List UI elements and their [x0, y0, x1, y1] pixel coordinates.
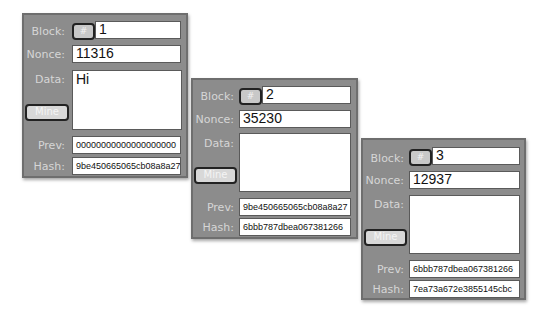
mine-button[interactable]: Mine [25, 104, 69, 121]
block-number-input[interactable]: 2 [262, 86, 351, 104]
block-card-1: Block: # 1 Nonce: 11316 Data: Hi Mine Pr… [22, 13, 188, 178]
data-label: Data: [189, 137, 234, 150]
prev-label: Prev: [189, 201, 234, 214]
hash-label: Hash: [359, 283, 404, 296]
block-label: Block: [359, 152, 404, 165]
block-label: Block: [20, 25, 65, 38]
prev-label: Prev: [359, 263, 404, 276]
block-label: Block: [189, 90, 234, 103]
prev-hash-field[interactable]: 00000000000000000000 [72, 136, 181, 154]
nonce-label: Nonce: [20, 48, 65, 61]
data-textarea[interactable] [239, 133, 351, 192]
hash-label: Hash: [189, 221, 234, 234]
nonce-label: Nonce: [189, 113, 234, 126]
prev-hash-field[interactable]: 6bbb787dbea067381266 [409, 260, 520, 278]
hash-button[interactable]: # [239, 88, 262, 105]
prev-hash-field[interactable]: 9be450665065cb08a8a27 [239, 198, 351, 216]
hash-button[interactable]: # [72, 23, 95, 40]
data-label: Data: [359, 198, 404, 211]
block-card-2: Block: # 2 Nonce: 35230 Data: Mine Prev:… [191, 78, 358, 239]
mine-button[interactable]: Mine [364, 229, 407, 246]
data-textarea[interactable]: Hi [72, 70, 182, 130]
block-card-3: Block: # 3 Nonce: 12937 Data: Mine Prev:… [361, 138, 526, 300]
data-textarea[interactable] [409, 195, 520, 254]
prev-label: Prev: [20, 139, 65, 152]
hash-label: Hash: [20, 160, 65, 173]
nonce-input[interactable]: 35230 [239, 110, 351, 128]
nonce-label: Nonce: [359, 174, 404, 187]
block-number-input[interactable]: 1 [95, 21, 181, 39]
hash-button[interactable]: # [409, 149, 432, 166]
nonce-input[interactable]: 11316 [72, 45, 181, 63]
mine-button[interactable]: Mine [194, 167, 237, 184]
hash-field[interactable]: 9be450665065cb08a8a27 [72, 157, 181, 175]
nonce-input[interactable]: 12937 [409, 171, 520, 189]
block-number-input[interactable]: 3 [432, 147, 520, 165]
hash-field[interactable]: 6bbb787dbea067381266 [239, 218, 351, 236]
hash-field[interactable]: 7ea73a672e3855145cbc [409, 280, 520, 298]
data-label: Data: [20, 73, 65, 86]
